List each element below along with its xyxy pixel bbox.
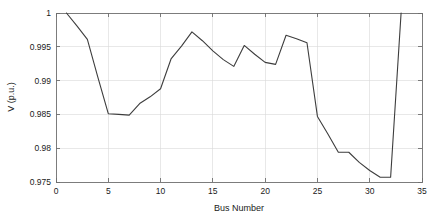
- chart-figure: 05101520253035 0.9750.980.9850.990.9951 …: [0, 0, 438, 220]
- x-tick-label: 0: [54, 186, 59, 196]
- x-tick-label: 20: [260, 186, 270, 196]
- x-axis-label: Bus Number: [214, 203, 264, 213]
- x-tick-label: 15: [208, 186, 218, 196]
- x-tick-label: 30: [365, 186, 375, 196]
- y-tick-label: 0.995: [30, 42, 52, 52]
- y-tick-label: 0.98: [34, 143, 51, 153]
- voltage-profile-chart: 05101520253035 0.9750.980.9850.990.9951 …: [0, 0, 438, 220]
- y-tick-label: 1: [46, 8, 51, 18]
- x-tick-label: 35: [417, 186, 427, 196]
- y-tick-label: 0.975: [30, 177, 52, 187]
- x-tick-label: 25: [313, 186, 323, 196]
- y-tick-label: 0.99: [34, 76, 51, 86]
- x-tick-label: 10: [156, 186, 166, 196]
- x-tick-label: 5: [106, 186, 111, 196]
- y-tick-label: 0.985: [30, 109, 52, 119]
- y-axis-label: V (p.u.): [6, 82, 16, 112]
